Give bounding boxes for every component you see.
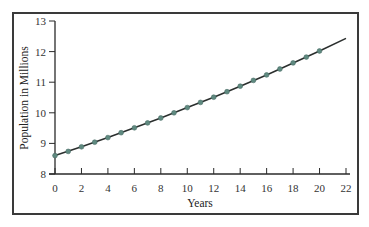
data-point (238, 84, 243, 89)
data-point (92, 140, 97, 145)
data-point (66, 149, 71, 154)
x-tick-label: 12 (208, 182, 219, 194)
data-point (264, 73, 269, 78)
y-axis-label: Population in Millions (18, 46, 31, 150)
data-point (251, 78, 256, 83)
x-tick-label: 20 (314, 182, 326, 194)
data-point (53, 153, 58, 158)
fitted-curve-line (55, 38, 346, 155)
y-tick-label: 12 (35, 46, 46, 58)
x-tick-label: 10 (182, 182, 194, 194)
data-points (53, 49, 322, 158)
x-axis-label: Years (187, 197, 213, 209)
data-point (158, 116, 163, 121)
data-point (185, 105, 190, 110)
data-point (225, 89, 230, 94)
data-point (145, 121, 150, 126)
data-point (119, 130, 124, 135)
data-point (132, 125, 137, 130)
x-tick-label: 16 (261, 182, 273, 194)
y-tick-label: 10 (35, 107, 47, 119)
x-tick-label: 0 (52, 182, 58, 194)
data-point (211, 95, 216, 100)
x-tick-label: 18 (288, 182, 300, 194)
x-axis: 0246810121416182022 (49, 168, 352, 194)
data-point (278, 67, 283, 72)
x-tick-label: 2 (79, 182, 85, 194)
x-tick-label: 6 (132, 182, 138, 194)
data-point (198, 100, 203, 105)
y-tick-label: 8 (41, 168, 47, 180)
y-tick-label: 13 (35, 15, 47, 27)
x-tick-label: 22 (341, 182, 352, 194)
y-tick-label: 9 (41, 137, 47, 149)
x-tick-label: 14 (235, 182, 247, 194)
data-point (172, 110, 177, 115)
y-tick-label: 11 (35, 76, 46, 88)
population-chart: 8910111213 0246810121416182022 Populatio… (0, 0, 369, 227)
data-point (304, 55, 309, 60)
x-tick-label: 8 (158, 182, 164, 194)
y-axis: 8910111213 (35, 15, 55, 180)
data-point (79, 144, 84, 149)
data-point (291, 61, 296, 66)
x-tick-label: 4 (105, 182, 111, 194)
data-point (317, 49, 322, 54)
data-point (106, 135, 111, 140)
